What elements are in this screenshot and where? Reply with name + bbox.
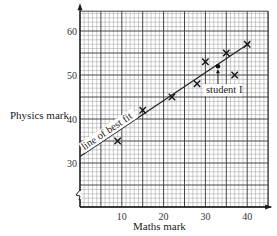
student-i-label: student I bbox=[204, 84, 243, 96]
student-i-dot bbox=[216, 64, 221, 69]
x-tick-label: 10 bbox=[117, 211, 127, 222]
y-tick-label: 60 bbox=[67, 26, 77, 37]
best-fit-line bbox=[80, 43, 249, 156]
line-of-best-fit bbox=[80, 43, 249, 156]
x-axis-label: Maths mark bbox=[133, 220, 186, 232]
annotations: line of best fitstudent I bbox=[78, 69, 243, 153]
x-tick-label: 30 bbox=[200, 211, 210, 222]
x-axis-arrow-icon bbox=[265, 205, 272, 210]
x-tick-label: 40 bbox=[242, 211, 252, 222]
y-tick-label: 30 bbox=[67, 158, 77, 169]
y-tick-label: 50 bbox=[67, 70, 77, 81]
student-i-text: student I bbox=[206, 84, 243, 95]
y-axis-arrow-icon bbox=[78, 3, 83, 10]
y-axis-label: Physics mark bbox=[10, 109, 69, 121]
axes bbox=[76, 3, 272, 209]
scatter-chart: 1020304030405060 line of best fitstudent… bbox=[0, 0, 277, 236]
arrow-head-icon bbox=[216, 69, 220, 73]
minor-grid bbox=[80, 11, 268, 207]
major-grid bbox=[80, 11, 268, 207]
